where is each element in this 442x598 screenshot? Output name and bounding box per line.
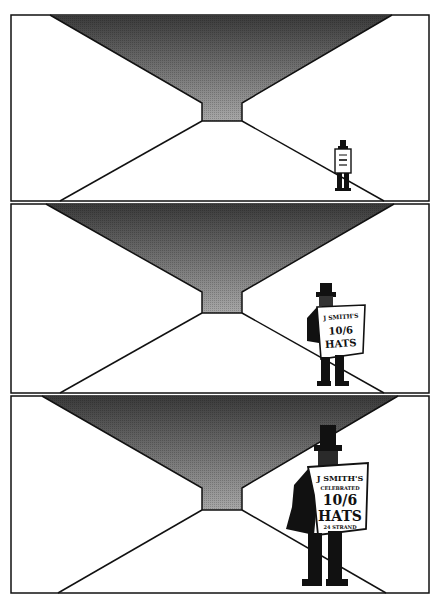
panel-2: J SMITH'S 10/6 HATS	[11, 204, 429, 393]
panel-3: J SMITH'S CELEBRATED 10/6 HATS 24 STRAND	[11, 396, 429, 593]
sign-line-3: 10/6	[323, 492, 357, 508]
panel-1	[11, 15, 429, 201]
comic-strip: J SMITH'S 10/6 HATS J SMITH'S CELEBRATED…	[0, 0, 442, 598]
sign-line-5: 24 STRAND	[324, 524, 358, 530]
sign-line-1: J SMITH'S	[316, 473, 364, 483]
sign-line-3: 10/6	[328, 324, 353, 337]
sign-line-4: HATS	[325, 337, 357, 350]
sign-line-2: CELEBRATED	[321, 485, 361, 491]
sign-line-4: HATS	[318, 508, 362, 524]
